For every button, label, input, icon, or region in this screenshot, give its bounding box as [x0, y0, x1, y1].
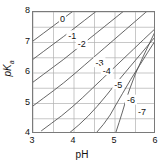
y-tick-label: 8 — [14, 6, 30, 15]
x-tick-label: 3 — [23, 136, 41, 145]
contour-label: -2 — [78, 39, 86, 49]
contour-label: -4 — [103, 66, 111, 76]
contour-label: -1 — [68, 31, 76, 41]
contour-labels: 0-1-2-3-4-5-6-7 — [33, 12, 155, 133]
contour-label: -5 — [114, 80, 122, 90]
contour-label: -7 — [138, 107, 146, 117]
y-axis-label-main: pK — [2, 64, 13, 76]
x-tick-label: 4 — [64, 136, 82, 145]
contour-plot-figure: 0-1-2-3-4-5-6-7 45678 3456 pH pKa — [0, 0, 164, 167]
y-tick-label: 7 — [14, 37, 30, 46]
x-tick-label: 5 — [105, 136, 123, 145]
x-axis-label: pH — [0, 149, 164, 160]
contour-label: -6 — [127, 95, 135, 105]
y-axis-label: pKa — [2, 43, 15, 95]
x-axis-ticks: 3456 — [0, 136, 164, 148]
plot-area: 0-1-2-3-4-5-6-7 — [32, 11, 155, 133]
contour-label: 0 — [60, 14, 65, 24]
x-tick-label: 6 — [146, 136, 164, 145]
y-axis-label-subscript: a — [8, 60, 15, 64]
y-tick-label: 5 — [14, 98, 30, 107]
y-tick-label: 6 — [14, 67, 30, 76]
